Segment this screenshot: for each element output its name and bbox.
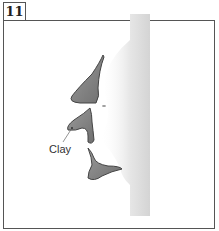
face-profile — [100, 14, 150, 216]
face-profile-illustration — [0, 0, 219, 231]
clay-label: Clay — [49, 143, 71, 155]
lip-clay — [68, 108, 94, 143]
nose-clay — [71, 55, 104, 103]
